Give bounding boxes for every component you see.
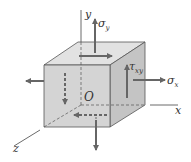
front-face [44,65,110,127]
sigma-x-label: σx [167,75,178,89]
stress-element-diagram: y σy τxy σx O x z [0,0,191,162]
tau-xy-label: τxy [129,61,143,75]
axis-z-label: z [13,143,19,154]
axis-x-label: x [175,105,181,116]
origin-label: O [84,91,94,103]
cube-drawing [0,0,191,162]
axis-y-label: y [85,9,91,20]
sigma-y-label: σy [98,18,109,32]
